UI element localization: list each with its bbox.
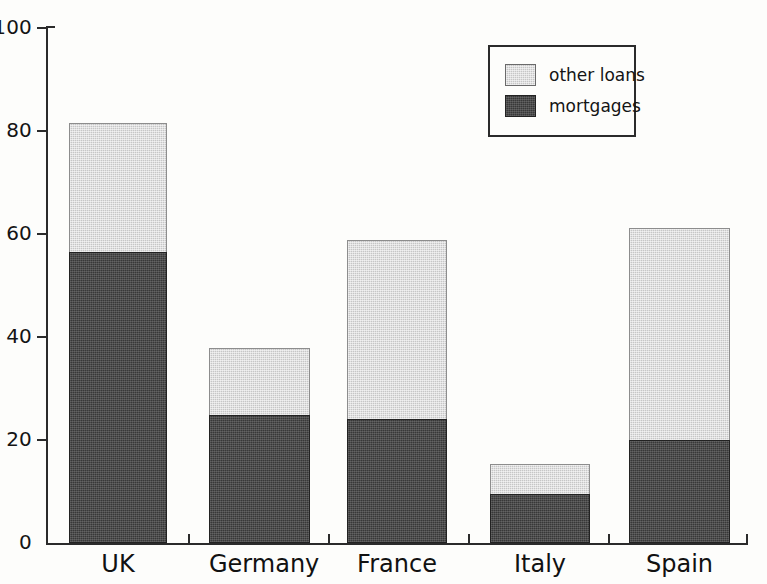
bar-germany-segment-other-loans[interactable] <box>209 348 310 416</box>
y-tick-40 <box>37 336 46 338</box>
y-axis-top-cap <box>46 26 55 28</box>
y-tick-label-20: 20 <box>6 429 32 449</box>
x-label-italy: Italy <box>490 549 590 579</box>
light-gray-swatch-icon <box>505 64 536 86</box>
chart-legend: other loans mortgages <box>488 45 636 137</box>
y-tick-20 <box>37 439 46 441</box>
legend-label-other-loans: other loans <box>549 64 645 86</box>
bar-italy-segment-mortgages[interactable] <box>490 494 590 543</box>
bar-germany-segment-mortgages[interactable] <box>209 415 310 543</box>
x-label-france: France <box>347 549 447 579</box>
bar-uk[interactable] <box>69 123 167 543</box>
stacked-bar-chart: 100 80 60 40 20 0 UK Germany France Ital… <box>0 0 767 584</box>
bar-germany[interactable] <box>209 348 310 543</box>
x-label-uk: UK <box>69 549 167 579</box>
bar-spain-segment-other-loans[interactable] <box>629 228 730 441</box>
x-label-spain: Spain <box>629 549 730 579</box>
y-tick-label-80: 80 <box>6 120 32 140</box>
x-axis-line <box>46 543 748 545</box>
bar-spain[interactable] <box>629 228 730 543</box>
y-tick-100 <box>37 27 46 29</box>
x-tick-3 <box>468 534 470 545</box>
y-tick-label-60: 60 <box>6 223 32 243</box>
bar-france-segment-other-loans[interactable] <box>347 240 447 420</box>
dark-gray-swatch-icon <box>505 95 536 117</box>
bar-italy[interactable] <box>490 464 590 543</box>
y-tick-label-40: 40 <box>6 326 32 346</box>
bar-uk-segment-mortgages[interactable] <box>69 252 167 543</box>
x-tick-1 <box>188 534 190 545</box>
bar-italy-segment-other-loans[interactable] <box>490 464 590 495</box>
x-tick-2 <box>328 534 330 545</box>
x-label-germany: Germany <box>209 549 310 579</box>
bar-uk-segment-other-loans[interactable] <box>69 123 167 253</box>
bar-spain-segment-mortgages[interactable] <box>629 440 730 543</box>
y-tick-label-100: 100 <box>0 17 32 37</box>
y-tick-80 <box>37 130 46 132</box>
legend-label-mortgages: mortgages <box>549 95 641 117</box>
x-axis-end-cap <box>746 534 748 545</box>
x-tick-4 <box>608 534 610 545</box>
y-axis-line <box>46 26 48 545</box>
bar-france-segment-mortgages[interactable] <box>347 419 447 543</box>
y-tick-60 <box>37 233 46 235</box>
bar-france[interactable] <box>347 240 447 543</box>
y-tick-label-0: 0 <box>19 532 32 552</box>
